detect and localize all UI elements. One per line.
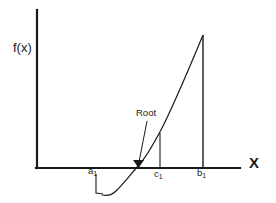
interval-label-b1-subscript: 1 <box>202 172 206 179</box>
root-label: Root <box>136 108 156 118</box>
interval-label-c1-subscript: 1 <box>159 173 163 180</box>
diagram-canvas <box>0 0 276 203</box>
interval-label-c1: c1 <box>154 169 163 179</box>
root-arrowhead-icon <box>133 160 144 168</box>
interval-label-a1: a1 <box>88 166 97 176</box>
y-axis-label: f(x) <box>13 41 32 54</box>
x-axis-label: X <box>249 155 259 170</box>
interval-label-a1-subscript: 1 <box>93 170 97 177</box>
a1-marker-line <box>96 174 103 194</box>
interval-label-b1: b1 <box>197 168 206 178</box>
function-plot-diagram: f(x) X Root a1 c1 b1 <box>0 0 276 203</box>
